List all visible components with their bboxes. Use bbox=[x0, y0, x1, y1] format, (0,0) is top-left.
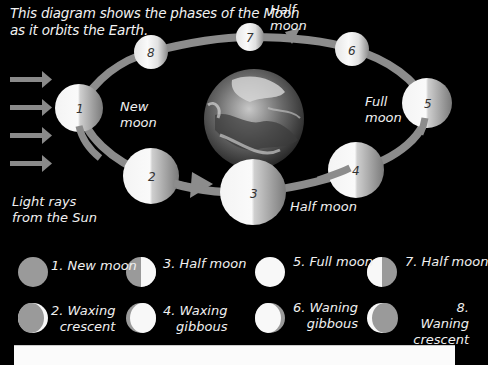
legend-moon-6-icon bbox=[255, 303, 285, 333]
arrow-icon bbox=[10, 71, 52, 88]
legend-moon-2-icon bbox=[18, 303, 48, 333]
orbit-moon-7: 7 bbox=[236, 23, 264, 51]
legend-moon-5-icon bbox=[255, 257, 285, 287]
light-ray-arrows bbox=[10, 71, 52, 172]
svg-text:2: 2 bbox=[148, 170, 156, 184]
white-panel bbox=[14, 345, 455, 365]
arrow-icon bbox=[10, 155, 52, 172]
label-new-moon: New moon bbox=[120, 99, 157, 131]
orbit-moon-2: 2 bbox=[123, 148, 179, 204]
arrow-icon bbox=[10, 99, 52, 116]
legend-label-5: 5. Full moon bbox=[293, 254, 373, 270]
orbit-moon-3: 3 bbox=[220, 159, 286, 225]
legend-label-2: 2. Waxing crescent bbox=[51, 303, 115, 335]
svg-text:4: 4 bbox=[352, 164, 360, 178]
legend-label-7: 7. Half moon bbox=[405, 254, 488, 270]
svg-text:1: 1 bbox=[76, 102, 84, 116]
orbit-moon-6: 6 bbox=[335, 32, 369, 66]
label-light-rays: Light rays from the Sun bbox=[12, 194, 97, 226]
svg-text:7: 7 bbox=[246, 31, 254, 45]
legend-moon-4-icon bbox=[126, 303, 156, 333]
legend-label-1: 1. New moon bbox=[51, 258, 137, 274]
legend-label-8: 8. Waning crescent bbox=[405, 300, 469, 348]
legend-label-6: 6. Waning gibbous bbox=[293, 300, 358, 332]
svg-text:8: 8 bbox=[147, 46, 155, 60]
label-half-moon-top: Half moon bbox=[270, 2, 307, 34]
orbit-moon-1: 1 bbox=[55, 84, 103, 132]
legend-label-4: 4. Waxing gibbous bbox=[163, 303, 227, 335]
earth-icon bbox=[204, 69, 304, 169]
label-full-moon: Full moon bbox=[365, 94, 402, 126]
orbit-moon-8: 8 bbox=[134, 35, 168, 69]
svg-text:5: 5 bbox=[424, 97, 432, 111]
arrow-icon bbox=[10, 127, 52, 144]
legend-label-3: 3. Half moon bbox=[163, 256, 246, 272]
legend-moon-1-icon bbox=[18, 257, 48, 287]
svg-text:6: 6 bbox=[348, 44, 356, 58]
label-half-moon-bottom: Half moon bbox=[290, 199, 357, 215]
legend-moon-8-icon bbox=[367, 303, 398, 333]
svg-text:3: 3 bbox=[250, 187, 258, 201]
